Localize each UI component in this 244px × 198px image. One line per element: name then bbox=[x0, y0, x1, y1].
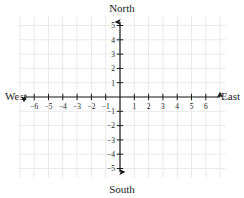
compass-label-north: North bbox=[0, 3, 244, 14]
tick-label-x: 3 bbox=[161, 102, 165, 111]
tick-label-x: 6 bbox=[204, 102, 208, 111]
tick-label-y: 5 bbox=[111, 21, 115, 30]
tick-label-x: −2 bbox=[87, 102, 95, 111]
plot-area: −6−5−4−3−2−112345654321−1−2−3−4−5 bbox=[18, 16, 226, 178]
tick-label-y: −4 bbox=[107, 150, 115, 159]
tick-label-x: −5 bbox=[45, 102, 53, 111]
tick-label-y: 4 bbox=[111, 36, 115, 45]
tick-label-y: −2 bbox=[107, 121, 115, 130]
tick-label-y: 2 bbox=[111, 64, 115, 73]
tick-label-x: 5 bbox=[190, 102, 194, 111]
tick-label-x: −3 bbox=[73, 102, 81, 111]
axis-lines bbox=[24, 22, 220, 172]
tick-label-y: 3 bbox=[111, 50, 115, 59]
tick-label-x: −4 bbox=[59, 102, 67, 111]
tick-label-y: −5 bbox=[107, 164, 115, 173]
tick-label-y: −3 bbox=[107, 136, 115, 145]
tick-label-x: 1 bbox=[132, 102, 136, 111]
tick-label-y: 1 bbox=[111, 79, 115, 88]
tick-label-y: −1 bbox=[107, 107, 115, 116]
tick-label-x: 4 bbox=[175, 102, 179, 111]
coordinate-plane-figure: North South West East −6−5−4−3−2−1123456… bbox=[0, 0, 244, 198]
coordinate-grid-svg: −6−5−4−3−2−112345654321−1−2−3−4−5 bbox=[18, 16, 226, 178]
tick-label-x: 2 bbox=[147, 102, 151, 111]
tick-label-x: −6 bbox=[30, 102, 38, 111]
compass-label-south: South bbox=[0, 184, 244, 195]
